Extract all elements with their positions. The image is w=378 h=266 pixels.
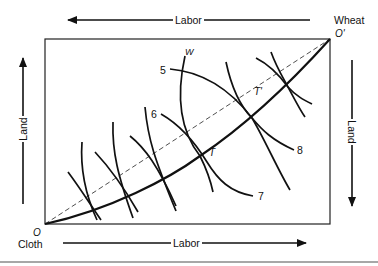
left-land-label: Land <box>16 116 30 142</box>
edgeworth-box-diagram <box>0 0 378 266</box>
wheat-isoquant-W <box>180 56 213 192</box>
right-land-label: Land <box>345 119 359 145</box>
point-T-label: T <box>209 147 215 159</box>
point-T-prime-label: T' <box>254 86 262 98</box>
wheat-origin-label: O' <box>335 28 345 40</box>
wheat-label: Wheat <box>334 14 364 26</box>
isoquant-5-label: 5 <box>160 64 166 76</box>
cloth-label: Cloth <box>18 238 43 250</box>
isoquant-curves <box>68 52 312 220</box>
isoquant-6-label: 6 <box>151 108 157 120</box>
top-labor-label: Labor <box>173 14 204 26</box>
isoquant-7-label: 7 <box>258 190 264 202</box>
wheat-isoquant-top <box>271 52 305 117</box>
wheat-isoquant-W-label: W <box>185 46 194 58</box>
wheat-isoquant-1 <box>82 142 97 220</box>
isoquant-8-label: 8 <box>297 144 303 156</box>
bottom-labor-label: Labor <box>171 237 202 249</box>
